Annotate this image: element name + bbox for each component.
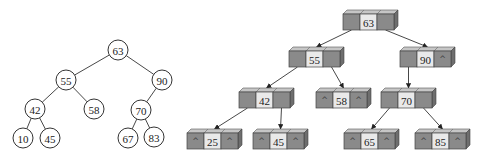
right-pointer-cell — [273, 92, 290, 108]
tree-node-70: 70 — [131, 100, 151, 120]
node-value: 65 — [364, 136, 376, 148]
null-pointer-icon: ^ — [454, 137, 461, 146]
pointer-arrow — [281, 108, 282, 129]
null-pointer-icon: ^ — [321, 96, 328, 105]
pointer-arrow — [372, 108, 390, 129]
node-value: 45 — [45, 133, 57, 145]
tree-edge — [73, 87, 87, 102]
box-side-face — [304, 129, 308, 149]
left-pointer-cell — [343, 14, 360, 30]
node-value: 58 — [336, 95, 348, 107]
tree-node-83: 83 — [144, 127, 164, 147]
linked-node-25: 25^^ — [187, 129, 242, 149]
node-value: 10 — [18, 133, 30, 145]
linked-node-90: 90^ — [400, 47, 455, 67]
box-top-face — [400, 47, 455, 51]
left-pointer-cell — [289, 51, 306, 67]
box-top-face — [415, 129, 470, 133]
box-top-face — [187, 129, 242, 133]
tree-edge — [42, 87, 58, 102]
linked-node-58: 58^^ — [316, 88, 371, 108]
pointer-arrow — [267, 67, 298, 88]
null-pointer-icon: ^ — [258, 137, 265, 146]
box-top-face — [343, 10, 398, 14]
right-pointer-cell — [415, 92, 432, 108]
linked-node-70: 70 — [381, 88, 436, 108]
node-value: 83 — [149, 132, 161, 144]
right-pointer-cell — [377, 14, 394, 30]
node-value: 70 — [136, 105, 148, 117]
tree-node-45: 45 — [40, 128, 60, 148]
pointer-arrow — [386, 30, 428, 47]
box-side-face — [290, 88, 294, 108]
tree-edge — [132, 119, 137, 129]
pointer-arrow — [424, 108, 443, 129]
tree-node-55: 55 — [56, 70, 76, 90]
box-side-face — [238, 129, 242, 149]
box-side-face — [395, 129, 399, 149]
box-side-face — [340, 47, 344, 67]
null-pointer-icon: ^ — [226, 137, 233, 146]
box-top-face — [381, 88, 436, 92]
null-pointer-icon: ^ — [349, 137, 356, 146]
node-value: 67 — [123, 133, 135, 145]
linked-node-85: 85^^ — [415, 129, 470, 149]
box-side-face — [432, 88, 436, 108]
node-value: 55 — [309, 54, 321, 66]
linked-node-55: 55 — [289, 47, 344, 67]
null-pointer-icon: ^ — [439, 55, 446, 64]
tree-node-67: 67 — [118, 128, 138, 148]
node-value: 63 — [363, 17, 375, 29]
linked-node-63: 63 — [343, 10, 398, 30]
tree-edge — [147, 88, 157, 102]
logical-tree: 63559042587010456783 — [13, 40, 172, 148]
box-side-face — [451, 47, 455, 67]
linked-node-65: 65^^ — [344, 129, 399, 149]
tree-edge — [126, 56, 153, 75]
node-value: 90 — [420, 54, 432, 66]
node-value: 90 — [157, 75, 169, 87]
node-value: 42 — [30, 104, 41, 116]
pointer-arrow — [332, 67, 344, 88]
node-value: 58 — [89, 104, 101, 116]
pointer-arrow — [215, 108, 248, 129]
node-value: 42 — [259, 95, 270, 107]
null-pointer-icon: ^ — [420, 137, 427, 146]
node-value: 70 — [401, 95, 413, 107]
tree-edge — [27, 118, 31, 129]
tree-node-10: 10 — [13, 128, 33, 148]
box-top-face — [239, 88, 294, 92]
tree-node-90: 90 — [152, 70, 172, 90]
node-value: 55 — [61, 75, 73, 87]
null-pointer-icon: ^ — [383, 137, 390, 146]
tree-node-63: 63 — [108, 40, 128, 60]
node-value: 85 — [435, 136, 447, 148]
box-top-face — [253, 129, 308, 133]
box-top-face — [289, 47, 344, 51]
left-pointer-cell — [381, 92, 398, 108]
null-pointer-icon: ^ — [192, 137, 199, 146]
tree-edge — [75, 55, 110, 75]
box-side-face — [466, 129, 470, 149]
box-top-face — [316, 88, 371, 92]
null-pointer-icon: ^ — [355, 96, 362, 105]
null-pointer-icon: ^ — [292, 137, 299, 146]
linked-node-45: 45^^ — [253, 129, 308, 149]
left-pointer-cell — [400, 51, 417, 67]
box-side-face — [367, 88, 371, 108]
node-value: 63 — [113, 45, 125, 57]
left-pointer-cell — [239, 92, 256, 108]
node-value: 45 — [273, 136, 285, 148]
tree-node-42: 42 — [25, 99, 45, 119]
node-value: 25 — [207, 136, 219, 148]
linked-tree: 635590^4258^^7025^^45^^65^^85^^ — [187, 10, 470, 149]
tree-node-58: 58 — [84, 99, 104, 119]
right-pointer-cell — [323, 51, 340, 67]
pointer-arrow — [317, 30, 352, 47]
tree-edge — [145, 119, 149, 128]
linked-node-42: 42 — [239, 88, 294, 108]
box-top-face — [344, 129, 399, 133]
tree-edge — [40, 118, 46, 129]
tree-diagram: 63559042587010456783 635590^4258^^7025^^… — [0, 0, 479, 159]
box-side-face — [394, 10, 398, 30]
